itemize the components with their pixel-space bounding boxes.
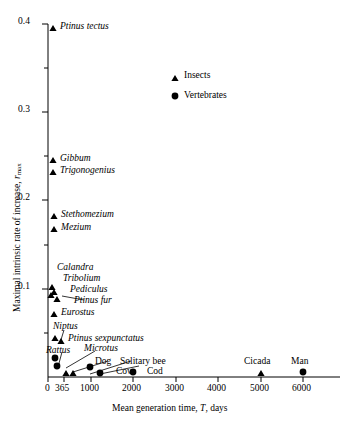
x-tick-label-1000: 1000 bbox=[80, 384, 99, 394]
marker-rattus bbox=[52, 355, 59, 362]
x-tick-label-5000: 5000 bbox=[250, 384, 269, 394]
annotation-ptinus-fur: Ptinus fur bbox=[74, 296, 112, 306]
marker-ptinus-fur bbox=[53, 296, 60, 302]
annotation-man: Man bbox=[291, 357, 308, 367]
y-tick-label-0-3: 0.3 bbox=[18, 105, 30, 115]
annotation-gibbum: Gibbum bbox=[60, 154, 91, 164]
annotation-microtus: Microtus bbox=[84, 344, 118, 354]
x-tick-label-0: 0 bbox=[45, 384, 50, 394]
annotation-ptinus-tectus: Ptinus tectus bbox=[60, 22, 109, 32]
marker-cow bbox=[97, 370, 104, 377]
marker-solitary-bee bbox=[62, 370, 69, 376]
annotation-tribolium: Tribolium bbox=[63, 274, 101, 284]
marker-cicada bbox=[257, 370, 264, 376]
x-axis-title-pre: Mean generation time, bbox=[112, 403, 200, 413]
marker-eurostus bbox=[50, 311, 57, 317]
legend-label-insects: Insects bbox=[184, 71, 210, 81]
x-axis-title-post: , days bbox=[205, 403, 227, 413]
annotation-dog: Dog bbox=[95, 357, 111, 367]
x-tick-label-365: 365 bbox=[55, 384, 69, 394]
x-tick-label-2000: 2000 bbox=[122, 384, 141, 394]
annotation-rattus: Rattus bbox=[46, 346, 70, 356]
x-tick-label-6000: 6000 bbox=[292, 384, 311, 394]
marker-man bbox=[300, 369, 307, 376]
annotation-cicada: Cicada bbox=[244, 357, 270, 367]
marker-ptinus-tectus bbox=[49, 25, 56, 31]
marker-dog bbox=[87, 364, 94, 371]
x-axis-title: Mean generation time, T, days bbox=[112, 404, 228, 414]
annotation-calandra: Calandra bbox=[57, 263, 93, 273]
x-tick-label-3000: 3000 bbox=[165, 384, 184, 394]
annotation-mezium: Mezium bbox=[61, 223, 91, 233]
annotation-eurostus: Eurostus bbox=[61, 308, 94, 318]
annotation-niptus: Niptus bbox=[53, 322, 78, 332]
y-axis-title-subscript: max bbox=[15, 163, 23, 175]
marker-gibbum bbox=[49, 157, 56, 163]
annotation-cow: Cow bbox=[116, 367, 134, 377]
annotation-trigonogenius: Trigonogenius bbox=[60, 166, 115, 176]
marker-niptus bbox=[51, 335, 58, 341]
y-tick-label-0-4: 0.4 bbox=[18, 17, 30, 27]
insect-markers bbox=[47, 25, 264, 376]
legend-circle-icon bbox=[172, 93, 179, 100]
marker-trigonogenius bbox=[49, 169, 56, 175]
marker-stethomezium bbox=[50, 213, 57, 219]
y-axis-title-pre: Maximal intrinsic rate of increase, bbox=[12, 179, 22, 312]
marker-calandra bbox=[48, 284, 55, 290]
y-axis-title: Maximal intrinsic rate of increase, rmax bbox=[12, 163, 23, 312]
marker-microtus bbox=[54, 363, 61, 370]
y-axis-title-symbol: r bbox=[12, 175, 22, 179]
marker-mezium bbox=[50, 226, 57, 232]
annotation-cod: Cod bbox=[147, 367, 163, 377]
x-axis-ticks bbox=[48, 377, 303, 382]
annotation-stethomezium: Stethomezium bbox=[61, 210, 114, 220]
legend-label-vertebrates: Vertebrates bbox=[184, 91, 227, 101]
scatter-chart-figure: 0.4 0.3 0.2 0.1 0 365 1000 2000 3000 400… bbox=[0, 0, 356, 430]
annotation-pediculus: Pediculus bbox=[70, 285, 107, 295]
legend-triangle-icon bbox=[171, 75, 178, 81]
x-tick-label-4000: 4000 bbox=[207, 384, 226, 394]
